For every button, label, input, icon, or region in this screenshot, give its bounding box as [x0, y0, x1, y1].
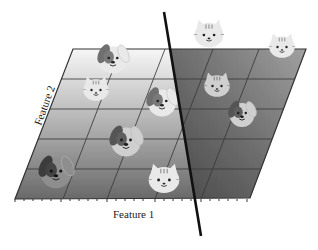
- cat-icon: [194, 20, 224, 48]
- cat-icon: [204, 73, 230, 97]
- cat-icon: [148, 164, 180, 193]
- cat-icon: [269, 34, 295, 58]
- cat-icon: [83, 77, 109, 101]
- x-axis-label: Feature 1: [113, 208, 154, 220]
- classification-diagram: Feature 1 Feature 2: [0, 0, 318, 250]
